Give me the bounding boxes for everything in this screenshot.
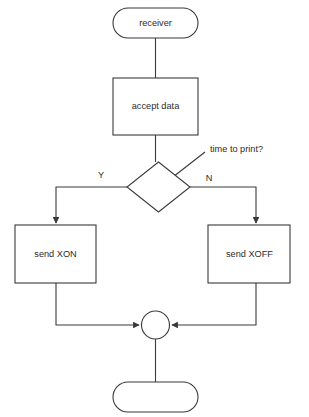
edge-decision-no-to-xoff — [190, 187, 256, 223]
end-terminal-shape[interactable] — [113, 382, 198, 412]
edge-xoff-to-merge — [172, 283, 256, 325]
start-terminal-label: receiver — [139, 18, 172, 28]
decision-annotation-label: time to print? — [210, 144, 263, 154]
accept-process-label: accept data — [132, 101, 180, 111]
xon-process-label: send XON — [34, 249, 76, 259]
decision-diamond-shape[interactable] — [127, 162, 190, 212]
edge-xon-to-merge — [56, 283, 139, 325]
xoff-process-label: send XOFF — [226, 249, 273, 259]
flowchart-svg: receiver accept data send XON send XOFF … — [0, 0, 309, 417]
edge-label-yes: Y — [98, 170, 104, 180]
edge-decision-yes-to-xon — [56, 187, 127, 223]
merge-connector-shape[interactable] — [142, 311, 170, 339]
flowchart-canvas: receiver accept data send XON send XOFF … — [0, 0, 309, 417]
edge-label-no: N — [206, 173, 213, 183]
